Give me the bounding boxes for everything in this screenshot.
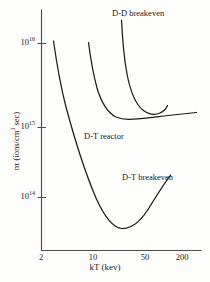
chart-figure: 1016 1015 1014 2 10 50 200 kT (kev) nτ (…: [0, 0, 210, 282]
x-tick-label-2: 2: [33, 252, 49, 262]
curve-dd-breakeven: [122, 20, 168, 114]
x-axis-title: kT (kev): [0, 262, 210, 272]
y-axis-title: nτ (ions/cm3 sec): [11, 81, 21, 201]
y-tick-exponent-15: 15: [29, 120, 35, 126]
x-tick-label-200: 200: [172, 252, 192, 262]
annotation-dd-breakeven: D-D breakeven: [112, 8, 164, 18]
y-axis-title-exponent: 3: [10, 128, 16, 131]
y-tick-exponent-14: 14: [29, 190, 35, 196]
annotation-dt-breakeven: D-T breakeven: [122, 172, 173, 182]
y-tick-exponent-16: 16: [29, 36, 35, 42]
y-axis-title-tail: sec): [11, 112, 21, 128]
x-tick-label-50: 50: [137, 252, 153, 262]
y-axis-title-lead: nτ (ions/cm: [11, 131, 21, 171]
y-tick-label-1e16: 1016: [6, 37, 35, 47]
annotation-dt-reactor: D-T reactor: [84, 131, 124, 141]
x-tick-label-10: 10: [85, 252, 101, 262]
curve-dt-reactor: [89, 43, 197, 120]
